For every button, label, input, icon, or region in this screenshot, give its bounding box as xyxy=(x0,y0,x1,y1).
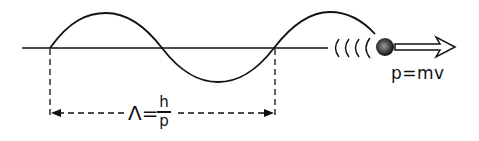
wave-curve xyxy=(50,12,375,82)
particle-ball-icon xyxy=(376,38,394,56)
motion-trail-arcs-icon xyxy=(336,38,371,58)
lambda-symbol: Λ xyxy=(128,101,142,125)
fraction-denominator: p xyxy=(157,114,171,129)
de-broglie-diagram: p=mv Λ= h p xyxy=(0,0,479,141)
momentum-label: p=mv xyxy=(391,63,445,83)
wavelength-fraction: h p xyxy=(157,95,171,129)
equals-sign: = xyxy=(142,101,159,125)
hollow-arrow-right-icon xyxy=(395,37,455,57)
fraction-numerator: h xyxy=(157,95,171,110)
wavelength-symbol: Λ= xyxy=(128,101,158,125)
